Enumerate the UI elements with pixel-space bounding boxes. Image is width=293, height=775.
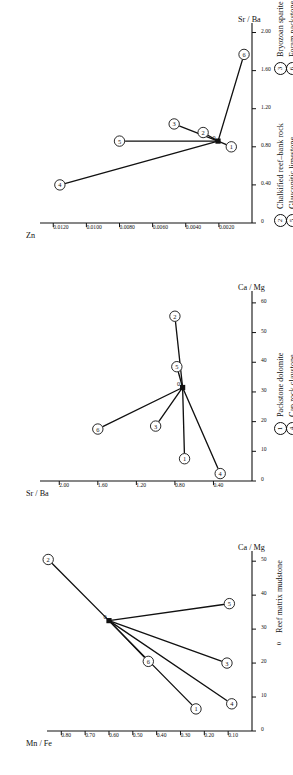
legend-symbol-0: 0 bbox=[274, 638, 285, 649]
legend-label: Bryozoan sparite bbox=[276, 1, 285, 57]
legend-label: Glauconitic limestone bbox=[288, 137, 293, 209]
legend-symbol-6: 6 bbox=[286, 62, 293, 75]
legend-item: 4Cap rock claystone bbox=[286, 354, 293, 435]
legend-label: Packstone dolomite bbox=[276, 353, 285, 417]
legend-symbol-5: 5 bbox=[286, 214, 293, 227]
legend-symbol-4: 4 bbox=[286, 422, 293, 435]
legend-item: 6Foram packstone bbox=[286, 1, 293, 75]
legend: 0Reef matrix mudstone1Packstone dolomite… bbox=[0, 0, 293, 775]
legend-label: Foram packstone bbox=[288, 1, 293, 57]
legend-label: Reef matrix mudstone bbox=[275, 560, 284, 633]
legend-label: Cap rock claystone bbox=[288, 354, 293, 417]
rotated-figure-canvas: 010203040500.100.200.300.400.500.600.700… bbox=[0, 0, 293, 775]
legend-item: 0Reef matrix mudstone bbox=[274, 560, 285, 649]
legend-item: 5Glauconitic limestone bbox=[286, 137, 293, 227]
legend-label: Chalkified reef–bank rock bbox=[276, 123, 285, 209]
